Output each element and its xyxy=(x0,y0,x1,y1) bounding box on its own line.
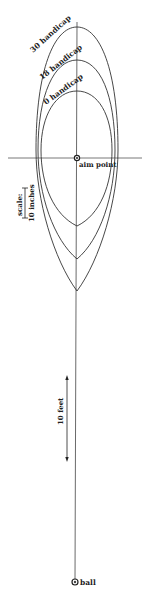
ball-label: ball xyxy=(80,578,96,587)
label-30-handicap: 30 handicap xyxy=(28,13,72,54)
distance-arrow xyxy=(65,375,68,462)
scale-label: scale: xyxy=(15,194,24,216)
putting-dispersion-diagram: 30 handicap 18 handicap 0 handicap aim p… xyxy=(0,0,148,598)
distance-label: 10 feet xyxy=(56,397,65,425)
ball-icon xyxy=(72,579,78,585)
target-line xyxy=(75,22,77,580)
scale-value-label: 10 inches xyxy=(27,184,36,222)
aim-point-label: aim point xyxy=(79,160,117,169)
